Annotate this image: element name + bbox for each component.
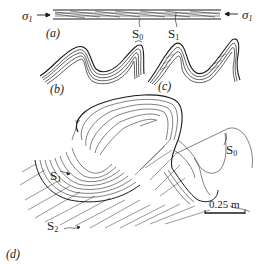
scale-bar (205, 210, 245, 214)
panel-d-label: (d) (6, 248, 20, 260)
panel-b-fold (40, 41, 144, 85)
panel-a-bed (37, 10, 238, 27)
sigma1-right-label: σ1 (242, 8, 252, 23)
scale-bar-label: 0.25 m (209, 199, 240, 210)
s0-label-top: S0 (132, 27, 143, 42)
panel-b-label: (b) (50, 83, 64, 95)
s2-label-d: S2 (47, 219, 58, 234)
s1-label-top: S1 (168, 27, 179, 42)
s0-label-d: S0 (226, 143, 237, 158)
panel-a-label: (a) (46, 27, 60, 39)
sigma1-left-label: σ1 (22, 9, 32, 24)
panel-c-label: (c) (158, 80, 171, 92)
s1-label-d: S1 (50, 169, 61, 184)
